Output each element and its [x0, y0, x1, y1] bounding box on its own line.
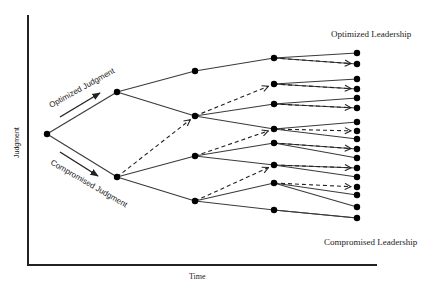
solid-edge — [274, 183, 357, 195]
level4-node — [354, 165, 360, 171]
level2-node — [192, 113, 198, 119]
level3-node — [271, 140, 277, 146]
solid-edge — [274, 210, 357, 218]
compromised-leadership-label: Compromised Leadership — [324, 237, 418, 247]
level4-node — [354, 76, 360, 82]
solid-edge — [117, 92, 195, 116]
root-node — [44, 131, 50, 137]
level3-node — [271, 101, 277, 107]
solid-edge — [274, 98, 357, 104]
solid-edge — [117, 156, 195, 177]
y-axis-label: Judgment — [13, 127, 21, 158]
level2-node — [192, 198, 198, 204]
level3-node — [271, 126, 277, 132]
level2-node — [192, 68, 198, 74]
level4-node — [354, 192, 360, 198]
level4-node — [354, 95, 360, 101]
tree-nodes — [44, 50, 360, 221]
solid-edge — [195, 183, 274, 201]
solid-edge — [195, 104, 274, 116]
solid-edge — [274, 122, 357, 129]
optimized-leadership-label: Optimized Leadership — [331, 29, 412, 39]
level1-node — [114, 174, 120, 180]
decision-tree-diagram: Optimized Judgment Compromised Judgment … — [0, 0, 430, 285]
level4-node — [354, 174, 360, 180]
solid-edge — [195, 156, 274, 165]
solid-edge — [117, 71, 195, 92]
solid-edge — [195, 58, 274, 71]
level4-node — [354, 86, 360, 92]
solid-edge — [117, 177, 195, 201]
level4-node — [354, 184, 360, 190]
solid-edge — [274, 53, 357, 58]
dashed-arrow-edge — [195, 131, 268, 156]
level4-node — [354, 119, 360, 125]
compromised-judgment-label: Compromised Judgment — [49, 158, 130, 210]
dashed-arrow-edge — [117, 120, 190, 177]
x-axis-label: Time — [189, 272, 206, 281]
level1-node — [114, 89, 120, 95]
level3-node — [271, 162, 277, 168]
level3-node — [271, 207, 277, 213]
level4-node — [354, 50, 360, 56]
level3-node — [271, 180, 277, 186]
level4-node — [354, 136, 360, 142]
dashed-arrow-edge — [195, 86, 268, 116]
level4-node — [354, 204, 360, 210]
level4-node — [354, 61, 360, 67]
tree-canvas: Optimized Judgment Compromised Judgment … — [0, 0, 430, 285]
level4-node — [354, 146, 360, 152]
level3-node — [271, 81, 277, 87]
level4-node — [354, 105, 360, 111]
level4-node — [354, 155, 360, 161]
dashed-arrow-edge — [195, 167, 269, 201]
level2-node — [192, 153, 198, 159]
solid-edge — [274, 143, 357, 158]
level3-node — [271, 55, 277, 61]
solid-edge — [195, 143, 274, 156]
level4-node — [354, 215, 360, 221]
solid-edge — [195, 116, 274, 129]
solid-edge — [274, 79, 357, 84]
solid-edge — [195, 201, 274, 210]
level4-node — [354, 128, 360, 134]
